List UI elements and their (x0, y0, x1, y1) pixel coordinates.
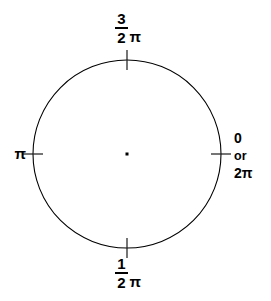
fraction-numerator: 1 (115, 256, 127, 272)
fraction-denominator: 2 (115, 274, 127, 290)
label-two-pi: 2π (234, 164, 268, 183)
label-three-halves-pi: 3 2 π (99, 11, 157, 45)
unit-circle-figure: 3 2 π 1 2 π π 0 or 2π (0, 0, 271, 301)
label-zero-or-two-pi: 0 or 2π (234, 129, 268, 183)
pi-symbol: π (130, 274, 141, 290)
fraction-three-halves: 3 2 (115, 11, 128, 45)
label-pi: π (8, 146, 26, 161)
fraction-one-half: 1 2 (115, 256, 128, 290)
fraction-denominator: 2 (115, 29, 127, 45)
center-dot (126, 153, 129, 156)
label-zero: 0 (234, 129, 268, 148)
label-one-half-pi: 1 2 π (99, 256, 157, 290)
pi-symbol: π (130, 29, 141, 45)
label-or: or (234, 148, 268, 165)
fraction-numerator: 3 (115, 11, 127, 27)
